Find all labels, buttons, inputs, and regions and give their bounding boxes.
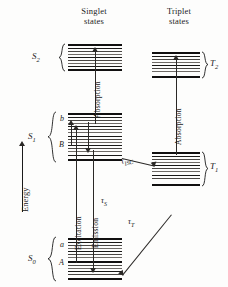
column-heading-singlet-line2: states xyxy=(62,16,126,26)
state-label-S0: S0 xyxy=(28,253,36,265)
vibrational-arrow-S1-mid xyxy=(88,122,89,150)
state-label-S1: S1 xyxy=(28,131,36,143)
energy-axis-arrowhead-icon xyxy=(19,141,25,146)
energy-axis-label: Energy xyxy=(20,188,30,212)
column-heading-triplet-line1: Triplet xyxy=(148,6,210,16)
vibrational-arrowhead-S1-mid-icon xyxy=(85,148,91,153)
lifetime-label-tau-ISC: τISC xyxy=(120,154,134,167)
transition-label-excitation: Excitation xyxy=(74,216,83,250)
transition-label-absorption-singlet: Absorption xyxy=(93,81,102,118)
state-label-T2: T2 xyxy=(210,58,218,70)
transition-absorption-triplet-arrowhead-icon xyxy=(173,55,179,60)
lifetime-label-tau-T: τT xyxy=(128,217,134,228)
state-label-T1: T1 xyxy=(210,161,218,173)
column-heading-singlet: Singlet states xyxy=(62,6,126,26)
sublevel-label-b: b xyxy=(60,114,64,123)
brace-S2 xyxy=(56,43,66,72)
brace-S1 xyxy=(46,111,57,163)
jablonski-diagram: Singlet states Triplet states Energy S2 xyxy=(0,0,228,287)
transition-emission-line xyxy=(93,150,94,270)
brace-S0 xyxy=(46,236,57,282)
sublevel-label-A: A xyxy=(59,258,64,267)
state-label-S2: S2 xyxy=(32,51,40,63)
level-band-T1 xyxy=(152,152,200,186)
transition-excitation-arrowhead-icon xyxy=(73,125,79,130)
sublevel-label-a: a xyxy=(60,240,64,249)
vibrational-arrow-S1-left xyxy=(71,124,72,146)
transition-absorption-singlet-arrowhead-icon xyxy=(92,47,98,52)
transition-label-absorption-triplet: Absorption xyxy=(174,108,183,145)
column-heading-triplet: Triplet states xyxy=(148,6,210,26)
column-heading-triplet-line2: states xyxy=(148,16,210,26)
lifetime-label-tau-S: τS xyxy=(101,196,107,207)
transition-emission-arrowhead-icon xyxy=(90,268,96,273)
transition-label-emission: Emission xyxy=(91,218,100,248)
column-heading-singlet-line1: Singlet xyxy=(62,6,126,16)
sublevel-label-B: B xyxy=(59,140,64,149)
